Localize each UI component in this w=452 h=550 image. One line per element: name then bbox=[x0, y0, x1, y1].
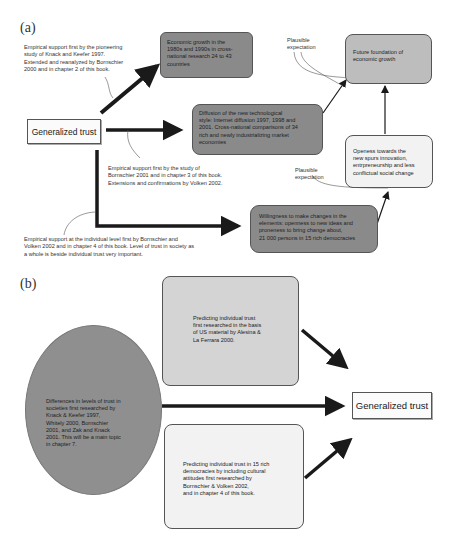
annotation-plausible-expectation-2: Plausible expectation bbox=[295, 167, 335, 182]
annotation-bornschier-2001: Empirical support first by the study of … bbox=[108, 165, 258, 187]
node-generalized-trust-a: Generalized trust bbox=[27, 119, 101, 144]
panel-a-label: (a) bbox=[20, 20, 36, 36]
box-diffusion: Diffusion of the new technological style… bbox=[192, 104, 323, 155]
node-generalized-trust-b: Generalized trust bbox=[352, 392, 432, 419]
box-future-foundation: Future foundation of economic growth bbox=[345, 34, 432, 84]
ellipse-differences-in-trust: Differences in levels of trust in societ… bbox=[25, 325, 162, 495]
arrow-diffusion-to-future bbox=[323, 80, 346, 113]
box-bornschier-volken: Predicting individual trust in 15 rich d… bbox=[164, 424, 304, 529]
leader-note-bornschier2001 bbox=[128, 130, 140, 158]
leader-note-knack bbox=[105, 77, 113, 98]
arrow-topbox-to-trust bbox=[302, 330, 346, 367]
annotation-knack-keefer: Empirical support first by the pioneerin… bbox=[24, 44, 154, 74]
arrow-bottombox-to-trust bbox=[305, 440, 350, 478]
box-openness: Openess towards the new spurs innovation… bbox=[345, 135, 433, 188]
arrow-trust-to-willingness bbox=[97, 150, 238, 226]
panel-b-label: (b) bbox=[20, 276, 36, 292]
box-willingness: Willingness to make changes in the eleme… bbox=[250, 205, 378, 253]
annotation-individual-level: Empirical support at the individual leve… bbox=[24, 236, 234, 258]
leader-note-individual bbox=[64, 212, 95, 235]
box-economic-growth: Economic growth in the 1980s and 1990s i… bbox=[160, 32, 253, 78]
leader-plausible-1a bbox=[301, 52, 343, 86]
annotation-plausible-expectation-1: Plausible expectation bbox=[287, 37, 327, 52]
box-alesina-laferrara: Predicting individual trust first resear… bbox=[162, 276, 299, 386]
